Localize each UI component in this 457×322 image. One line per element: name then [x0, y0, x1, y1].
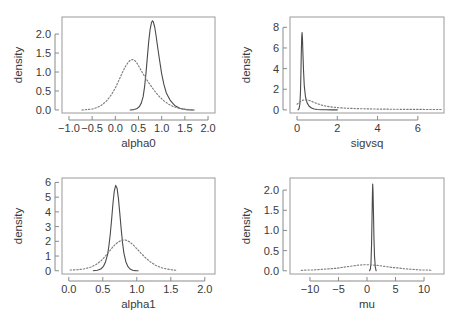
alpha0-plot-box	[62, 17, 215, 113]
sigvsq-curve-posterior	[298, 32, 337, 109]
alpha0-curve-posterior	[130, 21, 194, 110]
sigvsq-y-axis-label: density	[240, 47, 252, 84]
mu-x-ticklabel: 10	[418, 283, 430, 295]
mu-x-axis-label: mu	[359, 298, 375, 310]
sigvsq-y-ticklabel: 6	[273, 42, 279, 54]
sigvsq-y-ticklabel: 0	[273, 104, 279, 116]
mu-plot-box	[290, 178, 444, 274]
panel-alpha0: −1.0−0.50.00.51.01.52.00.00.51.01.52.0al…	[0, 0, 228, 161]
alpha1-y-ticklabel: 3	[45, 221, 51, 233]
alpha0-x-ticklabel: 0.0	[108, 122, 123, 134]
alpha1-y-ticklabel: 0	[45, 265, 51, 277]
mu-x-ticklabel: −5	[332, 283, 345, 295]
alpha1-y-ticklabel: 4	[45, 206, 51, 218]
alpha0-y-ticklabel: 0.5	[36, 85, 51, 97]
mu-curve-posterior	[370, 184, 377, 271]
alpha1-x-axis-label: alpha1	[121, 298, 156, 310]
mu-y-ticklabel: 0.0	[264, 265, 279, 277]
mu-x-ticklabel: −10	[301, 283, 320, 295]
alpha1-x-ticklabel: 1.5	[163, 283, 178, 295]
mu-x-ticklabel: 0	[364, 283, 370, 295]
panel-sigvsq: 024602468sigvsqdensity	[228, 0, 457, 161]
alpha0-y-axis-label: density	[12, 47, 24, 84]
alpha0-x-ticklabel: −0.5	[81, 122, 103, 134]
sigvsq-curve-prior	[297, 100, 443, 110]
sigvsq-x-ticklabel: 6	[415, 122, 421, 134]
sigvsq-x-ticklabel: 2	[334, 122, 340, 134]
density-plot-figure: −1.0−0.50.00.51.01.52.00.00.51.01.52.0al…	[0, 0, 457, 322]
alpha1-y-ticklabel: 1	[45, 250, 51, 262]
alpha0-y-ticklabel: 0.0	[36, 104, 51, 116]
alpha0-x-ticklabel: 0.5	[131, 122, 146, 134]
alpha0-y-ticklabel: 1.5	[36, 47, 51, 59]
alpha0-y-ticklabel: 2.0	[36, 28, 51, 40]
sigvsq-x-ticklabel: 4	[375, 122, 381, 134]
sigvsq-x-ticklabel: 0	[294, 122, 300, 134]
panel-alpha1: 0.00.51.01.52.00123456alpha1density	[0, 161, 228, 322]
alpha1-y-ticklabel: 5	[45, 191, 51, 203]
alpha0-x-ticklabel: 1.0	[154, 122, 169, 134]
mu-y-ticklabel: 1.5	[264, 204, 279, 216]
mu-curve-prior	[301, 265, 432, 271]
alpha0-x-axis-label: alpha0	[121, 137, 156, 149]
mu-y-ticklabel: 1.0	[264, 224, 279, 236]
panel-mu: −10−505100.00.51.01.52.0mudensity	[228, 161, 457, 322]
sigvsq-plot-box	[290, 17, 444, 113]
alpha1-y-axis-label: density	[12, 208, 24, 245]
mu-y-ticklabel: 2.0	[264, 184, 279, 196]
mu-y-axis-label: density	[240, 208, 252, 245]
sigvsq-y-ticklabel: 8	[273, 21, 279, 33]
sigvsq-y-ticklabel: 2	[273, 83, 279, 95]
mu-x-ticklabel: 5	[392, 283, 398, 295]
panel-sigvsq-svg: 024602468sigvsqdensity	[228, 0, 457, 161]
alpha1-y-ticklabel: 6	[45, 176, 51, 188]
alpha1-plot-box	[62, 178, 215, 274]
sigvsq-y-ticklabel: 4	[273, 63, 279, 75]
alpha1-x-ticklabel: 2.0	[197, 283, 212, 295]
alpha1-x-ticklabel: 0.5	[95, 283, 110, 295]
alpha1-x-ticklabel: 1.0	[129, 283, 144, 295]
alpha0-x-ticklabel: 1.5	[177, 122, 192, 134]
alpha0-x-ticklabel: 2.0	[200, 122, 215, 134]
panel-alpha0-svg: −1.0−0.50.00.51.01.52.00.00.51.01.52.0al…	[0, 0, 228, 161]
alpha0-curve-prior	[82, 60, 194, 110]
mu-y-ticklabel: 0.5	[264, 245, 279, 257]
panel-mu-svg: −10−505100.00.51.01.52.0mudensity	[228, 161, 457, 322]
alpha1-y-ticklabel: 2	[45, 235, 51, 247]
alpha0-y-ticklabel: 1.0	[36, 66, 51, 78]
alpha1-x-ticklabel: 0.0	[61, 283, 76, 295]
sigvsq-x-axis-label: sigvsq	[351, 137, 384, 149]
panel-alpha1-svg: 0.00.51.01.52.00123456alpha1density	[0, 161, 228, 322]
alpha1-curve-posterior	[93, 185, 138, 270]
alpha0-x-ticklabel: −1.0	[58, 122, 80, 134]
